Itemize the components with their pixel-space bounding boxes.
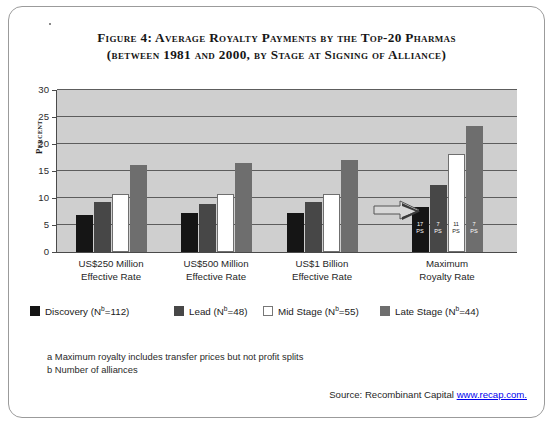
- figure-title: Figure 4: Average Royalty Payments by th…: [0, 29, 553, 63]
- y-tick-mark: [52, 117, 56, 118]
- source-prefix: Source: Recombinant Capital: [329, 389, 456, 400]
- legend-swatch-icon: [30, 306, 40, 316]
- x-axis-label: US$1 BillionEffective Rate: [257, 258, 387, 283]
- footnotes: a Maximum royalty includes transfer pric…: [47, 350, 303, 377]
- y-tick-mark: [52, 225, 56, 226]
- bar-annotation: 11PS: [448, 221, 465, 234]
- bar-discovery: [181, 213, 198, 252]
- bar-lead: [94, 202, 111, 252]
- legend-swatch-icon: [263, 306, 273, 316]
- legend-label: Late Stage (Nb=44): [395, 305, 479, 317]
- bar-lead: [430, 185, 447, 253]
- chart-legend: Discovery (Nb=112)Lead (Nb=48)Mid Stage …: [30, 305, 530, 321]
- bar-annotation: 7PS: [466, 221, 483, 234]
- right-arrow-icon: [372, 200, 422, 220]
- bar-lead: [305, 202, 322, 252]
- bar-group: [181, 90, 252, 252]
- decorative-speck: [49, 23, 51, 25]
- y-tick-label: 20: [25, 138, 49, 149]
- legend-item-mid[interactable]: Mid Stage (Nb=55): [263, 305, 359, 317]
- y-tick-mark: [52, 198, 56, 199]
- legend-label: Lead (Nb=48): [189, 305, 247, 317]
- title-line-2: (between 1981 and 2000, by Stage at Sign…: [0, 46, 553, 63]
- footnote-b: b Number of alliances: [47, 363, 303, 376]
- y-tick-label: 0: [25, 246, 49, 257]
- legend-item-late[interactable]: Late Stage (Nb=44): [380, 305, 479, 317]
- legend-swatch-icon: [380, 306, 390, 316]
- bar-mid: [448, 154, 465, 252]
- bar-annotation: 17PS: [412, 221, 429, 234]
- bar-discovery: [76, 215, 93, 252]
- source-line: Source: Recombinant Capital www.recap.co…: [329, 389, 527, 400]
- bar-group: [76, 90, 147, 252]
- title-line-1: Figure 4: Average Royalty Payments by th…: [0, 29, 553, 46]
- bar-group: 17PS7PS11PS7PS: [412, 90, 483, 252]
- bar-late: [130, 165, 147, 252]
- bar-mid: [217, 194, 234, 252]
- bar-lead: [199, 204, 216, 252]
- y-tick-label: 25: [25, 111, 49, 122]
- legend-label: Mid Stage (Nb=55): [278, 305, 359, 317]
- bar-late: [235, 163, 252, 252]
- footnote-a: a Maximum royalty includes transfer pric…: [47, 350, 303, 363]
- bar-mid: [323, 194, 340, 252]
- legend-item-discovery[interactable]: Discovery (Nb=112): [30, 305, 129, 317]
- bar-discovery: [287, 213, 304, 252]
- y-tick-label: 15: [25, 165, 49, 176]
- bar-late: [341, 160, 358, 252]
- y-tick-label: 10: [25, 192, 49, 203]
- y-tick-mark: [52, 144, 56, 145]
- y-tick-mark: [52, 252, 56, 253]
- legend-label: Discovery (Nb=112): [45, 305, 129, 317]
- bar-mid: [112, 194, 129, 252]
- bar-annotation: 7PS: [430, 221, 447, 234]
- y-tick-mark: [52, 90, 56, 91]
- y-tick-label: 5: [25, 219, 49, 230]
- x-axis-label: MaximumRoyalty Rate: [382, 258, 512, 283]
- legend-item-lead[interactable]: Lead (Nb=48): [174, 305, 247, 317]
- y-tick-mark: [52, 171, 56, 172]
- bar-group: [287, 90, 358, 252]
- legend-swatch-icon: [174, 306, 184, 316]
- source-link[interactable]: www.recap.com.: [457, 389, 527, 400]
- y-tick-label: 30: [25, 84, 49, 95]
